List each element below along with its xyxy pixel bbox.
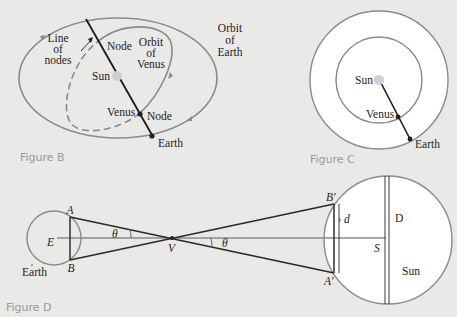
figure-b-caption: Figure B — [20, 151, 65, 164]
venus-dot — [137, 111, 142, 116]
label-orbit-venus: Venus — [137, 58, 166, 70]
label-sun: Sun — [92, 70, 110, 82]
label-d-large: D — [395, 212, 403, 224]
ray-a-to-a-prime — [70, 217, 334, 273]
label-b-prime: B′ — [326, 191, 336, 203]
label-node-top: Node — [107, 40, 132, 52]
figure-c-caption: Figure C — [310, 153, 355, 166]
label-s: S — [374, 242, 380, 254]
figure-d: A B E Earth θ V θ B′ A′ d D S Sun Figure… — [6, 176, 452, 314]
sun-disk — [324, 176, 452, 304]
label-sun: Sun — [402, 265, 420, 277]
label-earth: Earth — [415, 138, 440, 150]
label-orbit-earth: Earth — [218, 46, 243, 58]
diagram-canvas: Line of nodes Node Orbit of Venus Orbit … — [0, 0, 457, 317]
vertex-v-dot — [170, 236, 174, 240]
label-node-bottom: Node — [147, 110, 172, 122]
label-a: A — [65, 204, 74, 216]
label-earth: Earth — [22, 266, 47, 278]
orbit-arrow-icon — [168, 72, 173, 79]
ray-b-to-b-prime — [70, 204, 334, 260]
sun-icon — [112, 71, 122, 81]
angle-arc-right — [211, 238, 212, 247]
label-earth: Earth — [158, 137, 183, 149]
label-venus: Venus — [366, 108, 395, 120]
sun-icon — [374, 75, 384, 85]
figure-d-caption: Figure D — [6, 301, 52, 314]
label-theta-left: θ — [112, 228, 118, 240]
label-a-prime: A′ — [323, 275, 334, 287]
label-v: V — [168, 242, 177, 254]
earth-dot — [149, 133, 154, 138]
earth-dot — [408, 137, 413, 142]
label-line-of-nodes: nodes — [45, 54, 72, 66]
venus-dot — [396, 115, 401, 120]
figure-b: Line of nodes Node Orbit of Venus Orbit … — [19, 18, 243, 164]
label-d-small: d — [344, 213, 350, 225]
label-theta-right: θ — [222, 237, 228, 249]
figure-c: Sun Venus Earth Figure C — [310, 11, 448, 166]
label-orbit-earth: of — [225, 34, 235, 46]
label-b: B — [67, 262, 74, 274]
label-venus: Venus — [107, 106, 136, 118]
label-sun: Sun — [355, 74, 373, 86]
label-e: E — [46, 236, 54, 248]
label-orbit-earth: Orbit — [218, 22, 243, 34]
